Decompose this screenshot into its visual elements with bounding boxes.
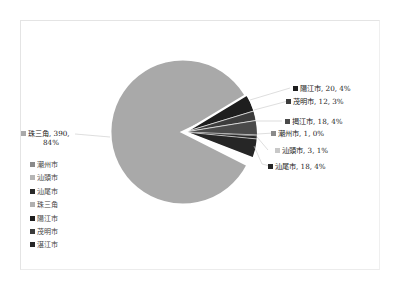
data-label-zhusanjiao-pct: 84%	[43, 138, 59, 147]
swatch-icon	[30, 175, 35, 180]
legend-item: 陽江市	[30, 214, 58, 227]
swatch-icon	[293, 86, 298, 91]
data-label-chaozhou: 潮州市, 1, 0%	[271, 129, 324, 138]
data-label-yangjiang: 陽江市, 20, 4%	[293, 84, 351, 93]
legend-item: 茂明市	[30, 227, 58, 240]
data-label-jiejiang: 揭江市, 18, 4%	[285, 117, 343, 126]
swatch-icon	[285, 119, 290, 124]
legend-item: 珠三角	[30, 200, 58, 213]
chart-legend: 潮州市 汕頭市 汕尾市 珠三角 陽江市 茂明市 湛江市	[30, 160, 58, 254]
swatch-icon	[30, 162, 35, 167]
swatch-icon	[21, 131, 26, 136]
swatch-icon	[30, 189, 35, 194]
swatch-icon	[271, 131, 276, 136]
legend-item: 汕頭市	[30, 173, 58, 186]
swatch-icon	[268, 164, 273, 169]
swatch-icon	[30, 242, 35, 247]
data-label-shanwei: 汕尾市, 18, 4%	[268, 162, 326, 171]
swatch-icon	[286, 99, 291, 104]
swatch-icon	[275, 148, 280, 153]
data-label-zhusanjiao: 珠三角, 390,	[21, 129, 70, 138]
swatch-icon	[30, 202, 35, 207]
legend-item: 潮州市	[30, 160, 58, 173]
legend-item: 汕尾市	[30, 187, 58, 200]
swatch-icon	[30, 229, 35, 234]
data-label-shantou: 汕頭市, 3, 1%	[275, 146, 328, 155]
data-label-maoming: 茂明市, 12, 3%	[286, 97, 344, 106]
swatch-icon	[30, 216, 35, 221]
legend-item: 湛江市	[30, 240, 58, 253]
pie-chart	[0, 0, 395, 286]
